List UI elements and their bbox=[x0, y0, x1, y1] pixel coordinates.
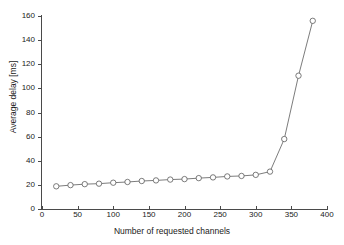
data-point-marker bbox=[282, 136, 287, 141]
data-point-marker bbox=[153, 178, 158, 183]
data-point-marker bbox=[210, 175, 215, 180]
data-point-marker bbox=[267, 169, 272, 174]
data-point-marker bbox=[96, 181, 101, 186]
data-point-marker bbox=[82, 181, 87, 186]
x-axis-title: Number of requested channels bbox=[0, 226, 344, 236]
data-point-marker bbox=[196, 175, 201, 180]
data-series-layer bbox=[0, 0, 344, 245]
data-point-marker bbox=[111, 180, 116, 185]
data-point-marker bbox=[239, 173, 244, 178]
series-line bbox=[56, 21, 313, 186]
y-axis-title: Average delay [ms] bbox=[8, 37, 18, 157]
data-point-marker bbox=[168, 177, 173, 182]
data-point-marker bbox=[296, 73, 301, 78]
data-point-marker bbox=[68, 182, 73, 187]
data-point-marker bbox=[225, 174, 230, 179]
data-point-marker bbox=[139, 178, 144, 183]
data-point-marker bbox=[310, 18, 315, 23]
data-point-marker bbox=[253, 172, 258, 177]
data-point-marker bbox=[125, 179, 130, 184]
series-markers bbox=[54, 18, 316, 189]
figure-canvas: 020406080100120140160 050100150200250300… bbox=[0, 0, 344, 245]
data-point-marker bbox=[54, 184, 59, 189]
data-point-marker bbox=[182, 176, 187, 181]
